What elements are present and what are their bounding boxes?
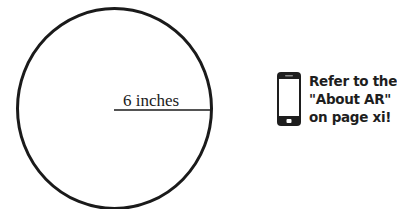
- ar-note-line-1: Refer to the: [309, 72, 397, 90]
- circle-diagram: 6 inches: [0, 0, 230, 209]
- ar-reference-note: Refer to the "About AR" on page xi!: [276, 71, 397, 127]
- ar-note-line-3: on page xi!: [309, 108, 397, 126]
- circle-shape: [0, 0, 230, 209]
- ar-note-text: Refer to the "About AR" on page xi!: [309, 72, 397, 126]
- radius-label: 6 inches: [123, 91, 179, 111]
- ar-note-line-2: "About AR": [309, 90, 397, 108]
- smartphone-icon: [276, 71, 302, 127]
